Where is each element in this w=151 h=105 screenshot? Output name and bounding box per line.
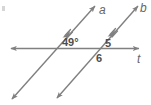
line-a-stroke [12, 6, 95, 99]
line-label-t: t [137, 53, 140, 65]
line-label-b: b [140, 2, 147, 14]
corner-artifact-mark [2, 6, 5, 11]
angle-label-49-degrees: 49° [62, 37, 79, 48]
line-label-a: a [99, 4, 106, 16]
geometry-diagram: a b t 49° 5 6 [0, 0, 151, 105]
angle-label-5: 5 [105, 38, 111, 49]
angle-label-6: 6 [96, 53, 102, 64]
geometry-canvas [0, 0, 151, 105]
